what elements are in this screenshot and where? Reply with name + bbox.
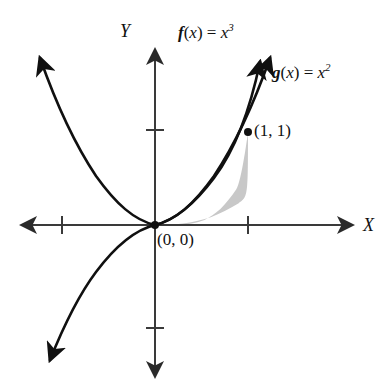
- point-marker-0-0: [151, 221, 159, 229]
- function-label-g-base: x: [317, 63, 325, 82]
- point-marker-1-1: [244, 128, 252, 136]
- function-label-f-exponent: 3: [228, 21, 234, 33]
- function-label-g-exponent: 2: [325, 61, 331, 73]
- function-label-g-arg: x: [286, 63, 294, 82]
- function-label-f-close-paren: ): [197, 23, 203, 42]
- function-label-g-equals: =: [304, 63, 314, 82]
- function-label-g-name: g: [272, 63, 281, 82]
- function-label-f: f(x) = x3: [178, 22, 234, 41]
- function-label-g: g(x) = x2: [272, 62, 331, 81]
- function-label-g-close-paren: ): [294, 63, 300, 82]
- point-label-1-1: (1, 1): [254, 122, 291, 139]
- y-axis: [146, 50, 164, 376]
- function-graph-figure: Y X f(x) = x3 g(x) = x2 (1, 1) (0, 0): [0, 0, 390, 386]
- x-axis-label: X: [363, 216, 374, 234]
- plot-canvas: [0, 0, 390, 386]
- y-axis-label: Y: [120, 22, 130, 40]
- point-label-0-0: (0, 0): [157, 231, 194, 248]
- function-label-f-arg: x: [189, 23, 197, 42]
- function-label-f-equals: =: [207, 23, 217, 42]
